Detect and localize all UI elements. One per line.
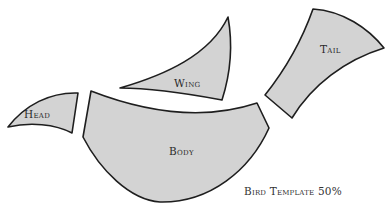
tail-label: Tail — [320, 43, 341, 55]
body-label: Body — [169, 145, 194, 157]
head-label: Head — [24, 108, 50, 120]
wing-label: Wing — [174, 77, 201, 89]
wing-piece: Wing — [120, 17, 230, 100]
template-caption: Bird Template 50% — [244, 185, 342, 197]
bird-template-diagram: Head Wing Tail Body Bird Template 50% — [0, 0, 392, 209]
tail-shape — [265, 9, 384, 118]
head-piece: Head — [8, 93, 78, 133]
tail-piece: Tail — [265, 9, 384, 118]
body-piece: Body — [83, 91, 269, 202]
